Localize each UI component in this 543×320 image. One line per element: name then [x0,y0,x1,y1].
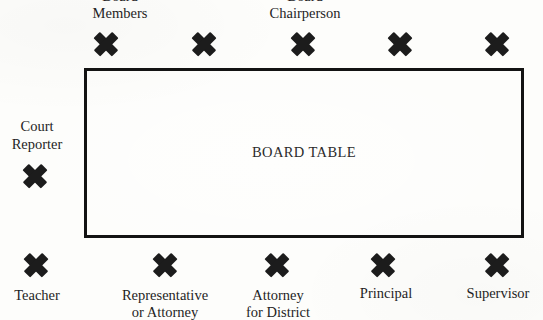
label-board-chairperson-line2: Chairperson [270,5,341,22]
label-supervisor: Supervisor [467,285,530,302]
label-teacher-line1: Teacher [14,287,60,304]
label-court-reporter-line1: Court [12,118,63,136]
label-attorney-for-district: Attorney for District [246,287,310,320]
seat-x-mark-top-2 [191,31,217,57]
label-representative-or-attorney-line1: Representative [122,287,208,304]
board-room-seating-diagram: Board Members Board Chairperson BOARD TA… [0,0,543,320]
label-supervisor-line1: Supervisor [467,285,530,302]
seat-x-mark-bottom-4 [370,252,396,278]
board-table: BOARD TABLE [84,68,524,238]
label-attorney-for-district-line2: for District [246,304,310,320]
label-principal: Principal [360,285,412,302]
seat-x-mark-top-3 [290,31,316,57]
seat-x-mark-court-reporter [22,163,48,189]
seat-x-mark-top-1 [93,31,119,57]
seat-x-mark-bottom-5 [484,252,510,278]
label-board-members-line2: Members [93,5,148,22]
seat-x-mark-bottom-2 [152,252,178,278]
label-court-reporter-line2: Reporter [12,136,63,154]
board-table-label: BOARD TABLE [87,144,521,161]
label-court-reporter: Court Reporter [12,118,63,153]
label-principal-line1: Principal [360,285,412,302]
label-representative-or-attorney: Representative or Attorney [122,287,208,320]
seat-x-mark-top-5 [484,31,510,57]
label-representative-or-attorney-line2: or Attorney [122,304,208,320]
label-teacher: Teacher [14,287,60,304]
seat-x-mark-top-4 [387,31,413,57]
seat-x-mark-bottom-3 [264,252,290,278]
label-attorney-for-district-line1: Attorney [246,287,310,304]
label-board-chairperson: Board Chairperson [270,0,341,22]
seat-x-mark-bottom-1 [23,252,49,278]
label-board-members: Board Members [93,0,148,22]
